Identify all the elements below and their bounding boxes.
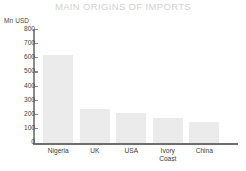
y-axis-tick-label: 100 (24, 125, 35, 132)
y-axis-tick-label: 200 (24, 111, 35, 118)
bar-chart-figure: MAIN ORIGINS OF IMPORTS Mn USD 800700600… (0, 0, 246, 171)
y-axis-tick-label: 700 (24, 40, 35, 47)
bar[interactable] (153, 118, 183, 143)
y-axis-tick-label: 600 (24, 54, 35, 61)
y-axis-tick-label: 0 (31, 139, 35, 146)
bar[interactable] (189, 122, 219, 143)
y-axis-tick-label: 400 (24, 83, 35, 90)
x-axis-category-label: Nigeria (40, 147, 77, 155)
x-axis-category-label: China (186, 147, 223, 155)
bar[interactable] (116, 113, 146, 144)
x-axis-category-label: Ivory Coast (150, 147, 187, 162)
x-axis-category-label: UK (77, 147, 114, 155)
x-axis-line (33, 143, 238, 145)
x-axis-category-label: USA (113, 147, 150, 155)
bar[interactable] (43, 55, 73, 143)
y-axis-tick-label: 300 (24, 97, 35, 104)
y-axis-tick-label: 500 (24, 68, 35, 75)
plot-area: 8007006005004003002001000 NigeriaUKUSAIv… (0, 0, 246, 171)
bar[interactable] (80, 109, 110, 143)
y-axis-tick-label: 800 (24, 26, 35, 33)
